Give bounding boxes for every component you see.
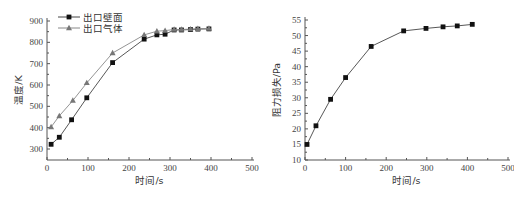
y-tick-label: 20 bbox=[292, 124, 302, 134]
data-point-square bbox=[84, 95, 89, 100]
x-tick-label: 300 bbox=[163, 163, 177, 173]
data-point-square bbox=[305, 142, 310, 147]
legend-square-icon bbox=[67, 15, 72, 20]
right-chart-resistance: 010020030040050010152025303540455055时间/s… bbox=[271, 15, 514, 186]
x-tick-label: 100 bbox=[81, 163, 95, 173]
y-tick-label: 700 bbox=[30, 59, 44, 69]
y-axis-label: 温度/K bbox=[13, 75, 24, 105]
y-tick-label: 45 bbox=[292, 46, 302, 56]
data-point-square bbox=[57, 135, 62, 140]
x-tick-label: 0 bbox=[303, 163, 308, 173]
y-tick-label: 30 bbox=[292, 93, 302, 103]
series-line bbox=[51, 29, 209, 128]
x-tick-label: 300 bbox=[420, 163, 434, 173]
x-tick-label: 200 bbox=[379, 163, 393, 173]
x-tick-label: 200 bbox=[122, 163, 136, 173]
y-tick-label: 600 bbox=[30, 80, 44, 90]
y-tick-label: 40 bbox=[292, 62, 302, 72]
x-tick-label: 500 bbox=[501, 163, 514, 173]
x-tick-label: 100 bbox=[339, 163, 353, 173]
data-point-square bbox=[470, 22, 475, 27]
data-point-square bbox=[110, 60, 115, 65]
data-point-square bbox=[441, 24, 446, 29]
series-line bbox=[51, 29, 209, 144]
x-tick-label: 400 bbox=[461, 163, 475, 173]
x-axis-label: 时间/s bbox=[135, 175, 163, 186]
x-tick-label: 0 bbox=[45, 163, 50, 173]
data-point-square bbox=[328, 97, 333, 102]
left-chart-temperature: 0100200300400500300400500600700800900时间/… bbox=[13, 12, 259, 186]
y-tick-label: 800 bbox=[30, 37, 44, 47]
legend: 出口壁面出口气体 bbox=[58, 12, 123, 34]
x-axis-label: 时间/s bbox=[392, 175, 420, 186]
data-point-square bbox=[455, 24, 460, 29]
data-point-triangle bbox=[110, 50, 116, 55]
y-tick-label: 50 bbox=[292, 31, 302, 41]
chart-canvas: 0100200300400500300400500600700800900时间/… bbox=[0, 0, 514, 203]
data-point-square bbox=[343, 75, 348, 80]
y-tick-label: 900 bbox=[30, 16, 44, 26]
legend-label: 出口壁面 bbox=[83, 12, 123, 23]
data-point-square bbox=[142, 37, 147, 42]
y-tick-label: 500 bbox=[30, 101, 44, 111]
y-tick-label: 300 bbox=[30, 144, 44, 154]
data-point-square bbox=[69, 117, 74, 122]
data-point-square bbox=[369, 44, 374, 49]
y-tick-label: 10 bbox=[292, 155, 302, 165]
series-line bbox=[307, 24, 472, 144]
data-point-square bbox=[314, 123, 319, 128]
data-point-square bbox=[49, 142, 54, 147]
data-point-square bbox=[401, 28, 406, 33]
y-tick-label: 15 bbox=[292, 139, 302, 149]
y-tick-label: 25 bbox=[292, 108, 302, 118]
y-tick-label: 55 bbox=[292, 15, 302, 25]
legend-label: 出口气体 bbox=[83, 23, 123, 34]
y-axis-label: 阻力损失/Pa bbox=[271, 63, 282, 117]
y-tick-label: 35 bbox=[292, 77, 302, 87]
y-tick-label: 400 bbox=[30, 123, 44, 133]
x-tick-label: 500 bbox=[245, 163, 259, 173]
x-tick-label: 400 bbox=[204, 163, 218, 173]
data-point-square bbox=[424, 26, 429, 31]
